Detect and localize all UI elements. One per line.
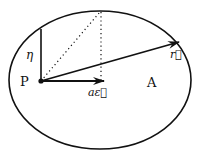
a-eps-label: aε⃗ xyxy=(88,86,107,99)
diagram-canvas: P A η aε⃗ r⃗ xyxy=(0,0,202,155)
focus-point xyxy=(38,78,43,83)
eta-label: η xyxy=(26,48,34,62)
orbit-diagram: P A η aε⃗ r⃗ xyxy=(0,0,202,155)
focus-label: P xyxy=(20,74,29,89)
r-vector xyxy=(41,42,179,81)
orbit-ellipse xyxy=(9,11,191,149)
apoapsis-label: A xyxy=(146,75,157,90)
r-vec-label: r⃗ xyxy=(170,48,182,61)
